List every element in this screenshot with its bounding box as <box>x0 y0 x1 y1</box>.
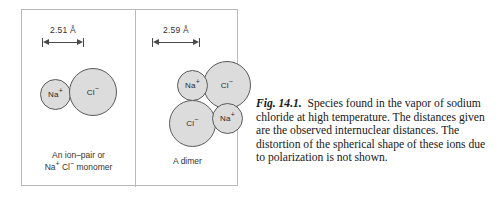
caption-dimer: A dimer <box>136 155 239 167</box>
tick-right-icon <box>199 38 200 47</box>
figure-number: Fig. 14.1. <box>256 97 302 110</box>
caption-monomer-line1: An ion–pair or <box>22 149 135 161</box>
ion-sodium-dimer-upper: Na+ <box>177 70 208 101</box>
ion-label: Cl− <box>87 88 99 97</box>
ion-label: Na+ <box>220 114 235 123</box>
arrow-shaft <box>45 42 81 43</box>
arrow-shaft <box>155 42 197 43</box>
dimension-dimer-label: 2.59 Å <box>152 25 200 35</box>
panel-monomer: 2.51 Å Na+ Cl− An ion–pair or Na+ Cl− mo… <box>22 10 135 187</box>
dimension-dimer-arrow <box>152 38 200 47</box>
ion-label: Cl− <box>186 119 198 128</box>
caption-monomer: An ion–pair or Na+ Cl− monomer <box>22 149 135 173</box>
ion-label: Na+ <box>48 90 63 99</box>
ion-chloride-dimer-upper: Cl− <box>203 61 251 109</box>
arrowhead-right-icon <box>77 39 83 45</box>
arrowhead-left-icon <box>153 39 159 45</box>
ion-label: Na+ <box>185 81 200 90</box>
figure-frame: 2.51 Å Na+ Cl− An ion–pair or Na+ Cl− mo… <box>21 9 238 186</box>
ion-sodium-monomer: Na+ <box>40 79 71 110</box>
arrowhead-left-icon <box>43 39 49 45</box>
tick-right-icon <box>83 38 84 47</box>
caption-dimer-line1: A dimer <box>136 155 239 167</box>
ion-sodium-dimer-lower: Na+ <box>212 103 243 134</box>
dimension-monomer: 2.51 Å <box>42 25 84 49</box>
figure-legend: Fig. 14.1. Species found in the vapor of… <box>256 97 494 165</box>
ion-chloride-dimer-lower: Cl− <box>169 100 216 147</box>
caption-monomer-line2: Na+ Cl− monomer <box>22 161 135 173</box>
figure-page: 2.51 Å Na+ Cl− An ion–pair or Na+ Cl− mo… <box>0 0 504 197</box>
dimension-dimer: 2.59 Å <box>152 25 200 49</box>
panel-dimer: 2.59 Å Cl− Cl− Na+ <box>136 10 239 187</box>
dimension-monomer-label: 2.51 Å <box>42 25 84 35</box>
dimension-monomer-arrow <box>42 38 84 47</box>
ion-label: Cl− <box>221 81 233 90</box>
arrowhead-right-icon <box>193 39 199 45</box>
ion-chloride-monomer: Cl− <box>69 68 117 116</box>
